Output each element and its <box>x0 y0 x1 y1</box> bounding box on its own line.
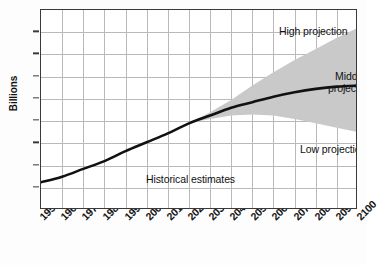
annotation-historical-estimates: Historical estimates <box>146 173 235 185</box>
annotation-middle-line2: projection <box>328 82 357 94</box>
x-axis-tick-label: 2100 <box>354 198 378 222</box>
annotation-low-projection: Low projection <box>300 143 357 155</box>
y-axis-tick-mark <box>33 31 39 32</box>
annotation-middle-line1: Middle <box>335 70 357 82</box>
y-axis-tick-mark <box>33 119 39 120</box>
y-axis-tick-mark <box>33 164 39 165</box>
y-axis-title: Billions <box>8 59 19 129</box>
y-axis-tick-mark <box>33 142 39 143</box>
y-axis-tick-mark <box>33 97 39 98</box>
y-axis-tick-mark <box>33 186 39 187</box>
y-axis-tick-mark <box>33 75 39 76</box>
annotation-high-projection: High projection <box>279 25 348 37</box>
annotation-middle-projection: Middle projection <box>328 70 357 94</box>
plot-area: High projection Middle projection Low pr… <box>40 9 357 209</box>
y-axis-tick-mark <box>33 53 39 54</box>
